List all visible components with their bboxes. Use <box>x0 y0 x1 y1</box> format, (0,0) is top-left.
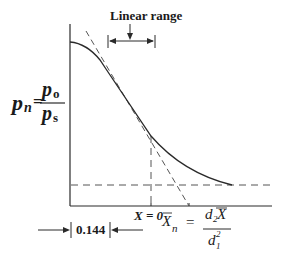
linear-range-label: Linear range <box>110 8 182 24</box>
offset-value-label: 0.144 <box>76 222 105 238</box>
x-zero-label: X = 0 <box>134 208 163 224</box>
tangent-dashed-line <box>86 31 189 206</box>
